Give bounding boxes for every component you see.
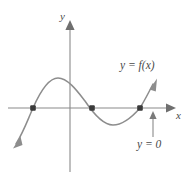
- x-axis-arrowhead: [166, 103, 176, 112]
- y-axis: [65, 20, 74, 172]
- curve-arrowhead-lower-left: [13, 137, 23, 149]
- y-axis-arrowhead: [65, 20, 74, 30]
- root-dot-1: [30, 105, 36, 111]
- graph-canvas: [0, 0, 191, 177]
- curve-arrowhead-upper-right: [150, 79, 158, 92]
- zero-pointer-arrowhead: [149, 111, 156, 119]
- graph-figure: y x y = f(x) y = 0: [0, 0, 191, 177]
- y-axis-label: y: [60, 11, 65, 22]
- root-dot-3: [137, 105, 143, 111]
- x-axis-label: x: [176, 110, 181, 121]
- function-curve: [13, 78, 157, 149]
- zero-line-label: y = 0: [137, 139, 161, 151]
- zero-pointer-arrow: [149, 111, 156, 137]
- root-dot-2: [89, 105, 95, 111]
- curve-equation-label: y = f(x): [120, 60, 155, 72]
